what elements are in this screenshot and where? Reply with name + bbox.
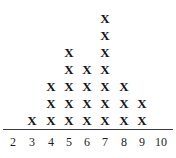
- x-mark: X: [96, 112, 114, 129]
- x-mark: X: [42, 78, 60, 95]
- x-mark: X: [60, 95, 78, 112]
- x-mark: X: [60, 44, 78, 61]
- x-mark: X: [60, 78, 78, 95]
- x-mark: X: [42, 95, 60, 112]
- x-mark: X: [42, 112, 60, 129]
- dot-column-7: XXXXXXX: [96, 10, 114, 129]
- x-mark: X: [96, 27, 114, 44]
- x-mark: X: [78, 61, 96, 78]
- x-mark: X: [115, 95, 133, 112]
- dot-column-6: XXXX: [78, 61, 96, 129]
- x-mark: X: [78, 112, 96, 129]
- dot-column-4: XXX: [42, 78, 60, 129]
- x-mark: X: [60, 112, 78, 129]
- x-axis-line: [3, 129, 173, 130]
- x-mark: X: [96, 95, 114, 112]
- plot-area: XXXXXXXXXXXXXXXXXXXXXXXXX: [0, 0, 176, 129]
- x-mark: X: [115, 112, 133, 129]
- x-mark: X: [23, 112, 41, 129]
- dot-column-3: X: [23, 112, 41, 129]
- x-axis-label-10: 10: [149, 133, 173, 151]
- x-mark: X: [133, 95, 151, 112]
- x-mark: X: [96, 10, 114, 27]
- x-mark: X: [96, 44, 114, 61]
- x-mark: X: [96, 78, 114, 95]
- x-mark: X: [78, 78, 96, 95]
- dot-plot-chart: XXXXXXXXXXXXXXXXXXXXXXXXX 2345678910: [0, 0, 176, 158]
- dot-column-9: XX: [133, 95, 151, 129]
- x-axis-tick-labels: 2345678910: [0, 133, 176, 155]
- dot-column-5: XXXXX: [60, 44, 78, 129]
- x-mark: X: [60, 61, 78, 78]
- x-mark: X: [133, 112, 151, 129]
- dot-column-8: XXX: [115, 78, 133, 129]
- x-mark: X: [78, 95, 96, 112]
- x-mark: X: [96, 61, 114, 78]
- x-mark: X: [115, 78, 133, 95]
